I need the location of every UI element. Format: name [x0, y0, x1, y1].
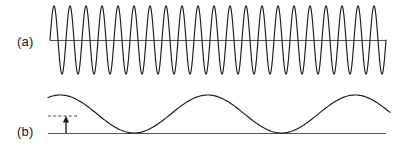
waveform-figure: (a) (b) [0, 0, 402, 153]
panel-b-envelope-curve [48, 95, 390, 133]
waveform-canvas [0, 0, 402, 153]
amplitude-arrow-head [63, 116, 69, 123]
